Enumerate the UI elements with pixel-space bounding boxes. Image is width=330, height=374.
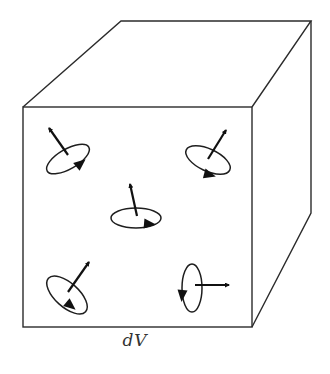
spin-bottom-left [40,262,93,321]
rotation-direction-arrowhead-icon [176,290,187,303]
cube-top-face-edges [23,21,311,107]
cube [23,21,311,327]
spins-group [40,128,234,321]
rotation-direction-arrowhead-icon [203,169,217,182]
volume-element-diagram [0,0,330,374]
spin-center [111,184,161,230]
orbit-ellipse [40,269,93,320]
rotation-direction-arrowhead-icon [73,155,89,170]
orbit-ellipse [182,264,202,312]
moment-arrow-icon [68,262,89,292]
orbit-ellipse [42,138,94,179]
spin-top-left [42,128,94,180]
cube-right-face-edges [252,21,311,327]
moment-arrow-icon [208,130,226,159]
spin-top-right [182,130,235,181]
moment-arrow-icon [130,184,137,216]
spin-bottom-right [176,264,229,312]
volume-element-label: dV [0,330,270,350]
moment-arrow-icon [49,128,68,155]
